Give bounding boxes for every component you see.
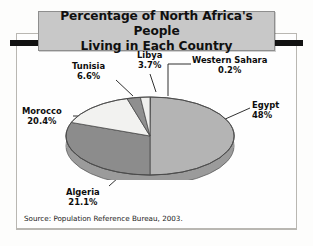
title-accent-bar-right	[275, 40, 303, 46]
title-accent-bar-left	[10, 40, 38, 46]
label-tunisia-name: Tunisia	[72, 61, 105, 71]
label-egypt-value: 48%	[252, 110, 272, 120]
label-tunisia: Tunisia 6.6%	[72, 62, 105, 81]
label-morocco-name: Morocco	[22, 106, 62, 116]
label-algeria-value: 21.1%	[68, 197, 97, 207]
chart-title: Percentage of North Africa's People Livi…	[39, 9, 274, 54]
label-morocco: Morocco 20.4%	[22, 107, 62, 126]
label-tunisia-value: 6.6%	[77, 71, 100, 81]
label-algeria: Algeria 21.1%	[66, 188, 100, 207]
label-egypt: Egypt 48%	[252, 101, 279, 120]
label-libya-value: 3.7%	[138, 60, 161, 70]
chart-plot-area: Tunisia 6.6% Libya 3.7% Western Sahara 0…	[16, 52, 297, 212]
label-egypt-name: Egypt	[252, 100, 279, 110]
label-western-sahara-value: 0.2%	[218, 65, 241, 75]
label-algeria-name: Algeria	[66, 187, 100, 197]
label-western-sahara-name: Western Sahara	[192, 55, 267, 65]
chart-figure: Percentage of North Africa's People Livi…	[0, 0, 313, 246]
pie-chart	[64, 80, 236, 196]
label-libya: Libya 3.7%	[137, 51, 162, 70]
chart-title-line1: Percentage of North Africa's People	[60, 9, 252, 38]
source-divider	[16, 228, 297, 229]
chart-title-banner: Percentage of North Africa's People Livi…	[38, 11, 275, 51]
label-libya-name: Libya	[137, 50, 162, 60]
label-western-sahara: Western Sahara 0.2%	[192, 56, 267, 75]
label-morocco-value: 20.4%	[27, 116, 56, 126]
source-note: Source: Population Reference Bureau, 200…	[24, 214, 183, 223]
